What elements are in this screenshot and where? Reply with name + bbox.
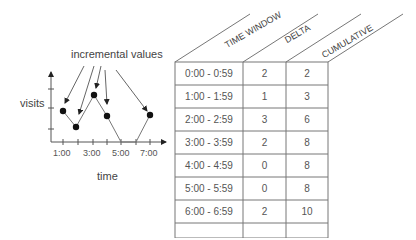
x-tick: 3:00: [83, 148, 101, 158]
x-tick: 7:00: [140, 148, 158, 158]
x-tick: 1:00: [53, 148, 71, 158]
y-axis-label: visits: [20, 97, 44, 109]
x-tick: 5:00: [112, 148, 130, 158]
x-axis-label: time: [97, 170, 118, 182]
annotation-label: incremental values: [71, 48, 163, 60]
